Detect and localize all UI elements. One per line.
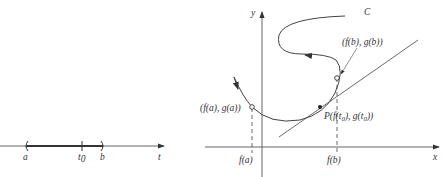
- label-b: b: [100, 152, 105, 162]
- label-curve-c: C: [364, 7, 371, 17]
- label-tick-fa: f(a): [239, 155, 253, 166]
- tangent-line: [279, 40, 418, 137]
- label-t-axis: t: [158, 152, 161, 162]
- label-y-axis: y: [250, 8, 256, 18]
- xy-plane-panel: x y C (f(a), g(a)) (f(b), g(b)) P(f(t0),…: [200, 7, 439, 177]
- point-p: [318, 105, 322, 109]
- direction-arrow-start: [234, 77, 238, 89]
- label-tick-fb: f(b): [327, 155, 341, 166]
- direction-arrow-mid: [305, 55, 312, 56]
- label-end-point: (f(b), g(b)): [342, 37, 383, 48]
- label-a: a: [23, 152, 28, 162]
- label-start-point: (f(a), g(a)): [200, 103, 241, 114]
- callout-arrow-end: [341, 48, 357, 74]
- t-axis-panel: a b t0 t: [0, 141, 164, 164]
- label-tangent-point: P(f(t0), g(t0)): [323, 111, 373, 123]
- parametric-curve-diagram: a b t0 t x y C (f(a), g(a)) (f(b), g(b))…: [0, 0, 442, 177]
- label-t0: t0: [78, 152, 86, 164]
- point-end: [335, 76, 340, 81]
- point-start: [250, 105, 255, 110]
- label-x-axis: x: [432, 152, 438, 162]
